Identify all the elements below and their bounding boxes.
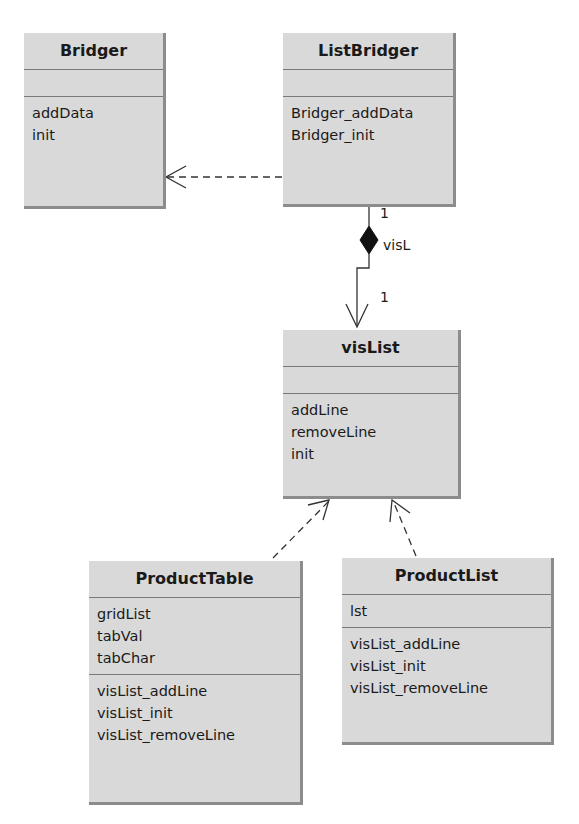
operation: Bridger_init: [291, 124, 445, 146]
operations-section: visList_addLine visList_init visList_rem…: [89, 675, 300, 751]
attributes-section: gridList tabVal tabChar: [89, 598, 300, 675]
class-name: visList: [283, 330, 458, 367]
class-name: ProductTable: [89, 561, 300, 598]
multiplicity-source: 1: [380, 205, 389, 221]
composition-diamond-icon: [360, 226, 378, 254]
attribute: lst: [350, 600, 543, 622]
operation: init: [32, 124, 155, 146]
operation: visList_removeLine: [97, 724, 292, 746]
composition-link: [346, 206, 378, 327]
class-name: ListBridger: [283, 33, 453, 70]
operations-section: visList_addLine visList_init visList_rem…: [342, 628, 551, 704]
operation: init: [291, 443, 450, 465]
operation: Bridger_addData: [291, 102, 445, 124]
attributes-section: [283, 367, 458, 394]
class-name: Bridger: [24, 33, 163, 70]
operation: visList_addLine: [350, 633, 543, 655]
class-bridger[interactable]: Bridger addData init: [24, 33, 166, 209]
operation: removeLine: [291, 421, 450, 443]
class-name: ProductList: [342, 558, 551, 595]
operations-section: addLine removeLine init: [283, 394, 458, 470]
attribute: tabVal: [97, 625, 292, 647]
class-listbridger[interactable]: ListBridger Bridger_addData Bridger_init: [283, 33, 456, 207]
class-producttable[interactable]: ProductTable gridList tabVal tabChar vis…: [89, 561, 303, 805]
class-vislist[interactable]: visList addLine removeLine init: [283, 330, 461, 499]
operation: addData: [32, 102, 155, 124]
operation: visList_init: [350, 655, 543, 677]
multiplicity-target: 1: [380, 289, 389, 305]
role-label: visL: [383, 237, 410, 253]
operations-section: Bridger_addData Bridger_init: [283, 97, 453, 151]
attributes-section: [283, 70, 453, 97]
realization-arrow-bridger: [166, 166, 282, 188]
attributes-section: lst: [342, 595, 551, 628]
realization-arrow-producttable: [273, 500, 329, 558]
operations-section: addData init: [24, 97, 163, 151]
operation: visList_removeLine: [350, 677, 543, 699]
operation: visList_init: [97, 702, 292, 724]
attribute: gridList: [97, 603, 292, 625]
attributes-section: [24, 70, 163, 97]
realization-arrow-productlist: [390, 500, 416, 556]
attribute: tabChar: [97, 647, 292, 669]
class-productlist[interactable]: ProductList lst visList_addLine visList_…: [342, 558, 554, 745]
operation: addLine: [291, 399, 450, 421]
operation: visList_addLine: [97, 680, 292, 702]
